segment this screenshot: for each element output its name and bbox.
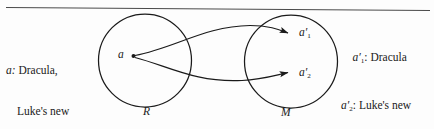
arrow-a-to-a-prime-2 [135, 58, 288, 81]
set-label-R: R [143, 105, 150, 119]
caption-a-symbol: a: [6, 64, 16, 76]
set-label-M: M [281, 106, 291, 120]
set-circle-M [245, 15, 338, 108]
caption-a-prime-2-symbol: a′2 [341, 99, 353, 111]
caption-a-text-1: Dracula, [18, 64, 57, 76]
point-label-a: a [118, 48, 124, 62]
caption-a-line-1: a: Dracula, [6, 64, 98, 78]
caption-a-prime-2-line-1: a′2: Luke's new [341, 99, 434, 113]
caption-a-prime-1-symbol: a′1 [353, 51, 365, 63]
caption-a-line-2: Luke's new [6, 105, 98, 119]
caption-a: a: Dracula, Luke's new neighbor [6, 37, 98, 129]
point-label-a-prime-1-subscript: 1 [307, 32, 311, 40]
caption-a-prime-2-text-1: Luke's new [359, 99, 411, 111]
arrow-a-to-a-prime-1 [135, 26, 288, 56]
caption-a-prime-1-text: Dracula [370, 51, 406, 63]
relation-mapping-figure: a: Dracula, Luke's new neighbor a′1: Dra… [0, 0, 434, 129]
top-horizontal-rule [6, 8, 430, 11]
point-label-a-prime-2-subscript: 2 [307, 72, 311, 80]
caption-a-prime-2: a′2: Luke's new neighbor [341, 72, 434, 129]
point-label-a-prime-2: a′2 [299, 66, 311, 80]
point-label-a-prime-1: a′1 [299, 26, 311, 40]
point-dot-a [132, 54, 136, 58]
